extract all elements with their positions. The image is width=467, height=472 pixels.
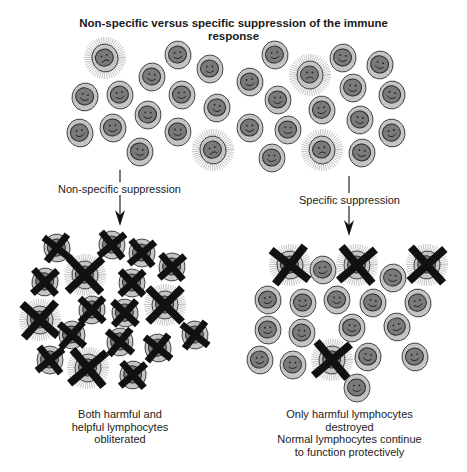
helpful-lymphocyte [339,73,367,103]
helpful-lymphocyte [138,62,167,93]
specific-suppression-label: Specific suppression [299,194,400,206]
harmful-lymphocyte [311,339,353,381]
helpful-lymphocyte [158,252,187,283]
helpful-lymphocyte [197,55,223,83]
helpful-lymphocyte [352,340,384,373]
helpful-lymphocyte [400,341,430,373]
helpful-lymphocyte [59,321,86,350]
helpful-lymphocyte [236,113,264,143]
helpful-lymphocyte [289,319,316,348]
caption-line: obliterated [40,433,200,446]
harmful-lymphocyte [84,37,126,79]
helpful-lymphocyte [358,287,389,319]
helpful-lymphocyte [105,326,135,358]
helpful-lymphocyte [376,116,408,149]
helpful-lymphocyte [105,79,135,111]
harmful-lymphocyte [192,129,234,171]
caption-line: helpful lymphocytes [40,421,200,434]
harmful-lymphocyte [64,254,106,296]
helpful-lymphocyte [165,118,192,147]
helpful-lymphocyte [180,320,209,351]
harmful-lymphocyte [406,244,448,286]
helpful-lymphocyte [69,80,101,113]
helpful-lymphocyte [280,351,306,379]
caption-non-specific: Both harmful and helpful lymphocytes obl… [40,408,200,446]
harmful-lymphocyte [301,129,343,171]
helpful-lymphocyte [323,285,351,315]
diagram-canvas [0,0,467,472]
helpful-lymphocyte [254,315,282,345]
harmful-lymphocyte [144,284,186,326]
harmful-lymphocyte [289,54,331,96]
helpful-lymphocyte [37,346,63,374]
harmful-lymphocyte [336,244,378,286]
helpful-lymphocyte [129,239,155,267]
helpful-lymphocyte [381,310,413,343]
helpful-lymphocyte [134,100,162,130]
helpful-lymphocyte [345,104,375,136]
helpful-lymphocyte [402,287,433,320]
helpful-lymphocyte [274,115,301,144]
helpful-lymphocyte [337,312,367,344]
caption-line: Both harmful and [40,408,200,421]
helpful-lymphocyte [308,254,338,285]
helpful-lymphocyte [168,80,195,109]
helpful-lymphocyte [64,117,95,150]
helpful-lymphocyte [109,297,140,330]
helpful-lymphocyte [163,39,193,70]
helpful-lymphocyte [347,137,377,168]
helpful-lymphocyte [379,263,408,294]
helpful-lymphocyte [289,288,316,317]
helpful-lymphocyte [117,358,149,391]
non-specific-suppression-label: Non-specific suppression [58,183,181,195]
caption-line: Normal lymphocytes continue [262,433,437,446]
harmful-lymphocyte [67,347,109,389]
helpful-lymphocyte [97,229,127,260]
helpful-lymphocyte [265,86,292,115]
helpful-lymphocyte [260,40,289,71]
caption-line: to function protectively [262,446,437,459]
caption-specific: Only harmful lymphocytes destroyed Norma… [262,408,437,458]
diagram-root: { "title": { "line1": "Non-specific vers… [0,0,467,472]
harmful-lymphocyte [269,244,311,286]
harmful-lymphocyte [19,299,61,341]
caption-line: destroyed [262,421,437,434]
helpful-lymphocyte [364,48,396,81]
helpful-lymphocyte [235,66,265,98]
specific-arrow [344,176,354,236]
helpful-lymphocyte [376,79,407,112]
helpful-lymphocyte [328,43,357,74]
helpful-lymphocyte [245,345,274,376]
helpful-lymphocyte [259,144,285,172]
helpful-lymphocyte [118,268,145,297]
helpful-lymphocyte [142,331,174,364]
helpful-lymphocyte [307,94,338,126]
cell-group-specific-result [245,244,448,402]
helpful-lymphocyte [99,113,127,143]
cell-group-non-specific-result [19,229,210,391]
helpful-lymphocyte [29,265,61,298]
helpful-lymphocyte [344,374,371,403]
helpful-lymphocyte [253,284,283,316]
helpful-lymphocyte [202,92,233,124]
helpful-lymphocyte [125,136,155,168]
caption-line: Only harmful lymphocytes [262,408,437,421]
cell-group-before [64,37,407,172]
non-specific-arrow [115,170,125,226]
